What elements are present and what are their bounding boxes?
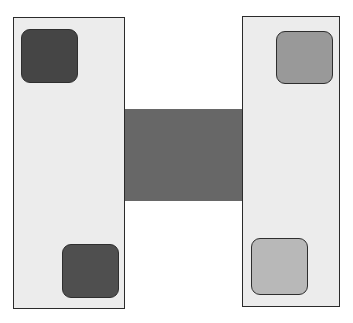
center-connector-bar	[125, 109, 242, 201]
top-right-square	[276, 31, 333, 84]
bottom-right-square	[251, 238, 308, 295]
top-left-square	[21, 29, 78, 83]
bottom-left-square	[62, 244, 119, 298]
